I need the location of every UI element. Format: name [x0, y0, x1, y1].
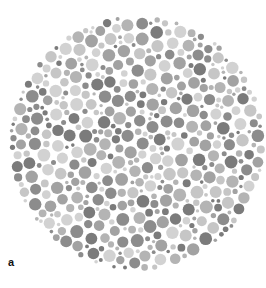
dot-plate: [0, 0, 266, 288]
panel-label: a: [8, 256, 14, 268]
